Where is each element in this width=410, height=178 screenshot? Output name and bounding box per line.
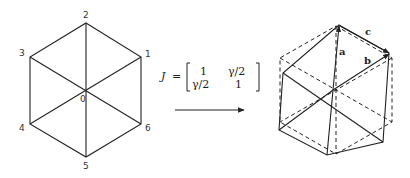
- hexagon-strain-diagram: 2 1 3 0 4 6 5 J = 1 γ/2 γ/2 1 a: [0, 0, 410, 178]
- matrix-cell-12: γ/2: [228, 65, 245, 78]
- vertex-label-4: 4: [19, 123, 25, 133]
- matrix-symbol: J: [159, 70, 166, 83]
- matrix-cell-22: 1: [235, 78, 242, 91]
- right-bracket: [256, 63, 259, 91]
- vertex-label-5: 5: [83, 161, 89, 171]
- vector-labels: a b c: [339, 26, 371, 66]
- vector-label-c: c: [365, 26, 371, 37]
- vertex-label-0: 0: [80, 94, 86, 104]
- equals-sign: =: [172, 70, 181, 83]
- left-hexagon: [30, 23, 141, 157]
- transform-equation: J = 1 γ/2 γ/2 1: [159, 63, 259, 110]
- vector-label-a: a: [339, 46, 346, 57]
- left-bracket: [187, 63, 190, 91]
- vector-label-b: b: [364, 55, 371, 66]
- vector-b-arrow: [333, 54, 389, 90]
- matrix-cell-21: γ/2: [192, 78, 209, 91]
- matrix-cell-11: 1: [200, 65, 207, 78]
- vertex-label-6: 6: [145, 123, 151, 133]
- vertex-label-2: 2: [83, 10, 89, 20]
- vertex-label-1: 1: [145, 49, 151, 59]
- right-hexagon-vectors: [333, 26, 389, 90]
- vertex-label-3: 3: [19, 48, 25, 58]
